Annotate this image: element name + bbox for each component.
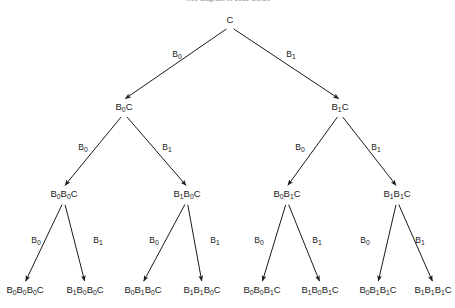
tree-edge-label-n6-n13: B0: [360, 235, 370, 246]
tree-edge-label-n1-n4: B1: [162, 142, 172, 153]
tree-node-n0: C: [227, 14, 234, 25]
tree-edge-n4-n10: [188, 205, 202, 281]
tree-edge-label-n0-n2: B1: [286, 49, 296, 60]
tree-edge-n0-n2: [234, 29, 339, 99]
tree-node-n8: B1B0B0C: [66, 284, 103, 296]
tree-edge-n1-n3: [65, 117, 121, 185]
tree-node-n3: B0B0C: [50, 188, 77, 200]
tree-edge-label-n2-n6: B1: [371, 142, 381, 153]
tree-edge-labels: B0B1B0B1B0B1B0B1B0B1B0B1B0B1: [31, 49, 425, 246]
tree-edge-n0-n1: [125, 29, 226, 99]
binary-tree-svg: B0B1B0B1B0B1B0B1B0B1B0B1B0B1 CB0CB1CB0B0…: [0, 0, 455, 308]
tree-node-n7: B0B0B0C: [6, 284, 43, 296]
tree-node-n14: B1B1B1C: [414, 284, 451, 296]
tree-node-n5: B0B1C: [273, 188, 300, 200]
tree-node-n10: B1B1B0C: [183, 284, 220, 296]
tree-edge-label-n5-n11: B0: [254, 235, 264, 246]
tree-edge-label-n5-n12: B1: [312, 235, 322, 246]
tree-node-n9: B0B1B0C: [124, 284, 161, 296]
tree-edge-label-n1-n3: B0: [78, 142, 88, 153]
tree-node-n4: B1B0C: [173, 188, 200, 200]
tree-node-n2: B1C: [332, 101, 349, 113]
tree-edges: [26, 29, 433, 281]
tree-node-n12: B1B0B1C: [301, 284, 338, 296]
tree-edge-n6-n13: [378, 205, 396, 281]
tree-edge-n3-n8: [65, 205, 85, 281]
figure-title: Tree diagram of code words: [0, 0, 455, 3]
tree-edge-n5-n11: [262, 205, 285, 281]
tree-edge-label-n6-n14: B1: [415, 235, 425, 246]
tree-node-n11: B0B0B1C: [243, 284, 280, 296]
tree-edge-label-n3-n8: B1: [93, 235, 103, 246]
tree-diagram-figure: Tree diagram of code words B0B1B0B1B0B1B…: [0, 0, 455, 308]
tree-edge-label-n0-n1: B0: [172, 49, 182, 60]
tree-edge-label-n4-n9: B0: [149, 235, 159, 246]
tree-edge-label-n3-n7: B0: [31, 235, 41, 246]
tree-edge-n2-n6: [343, 117, 396, 185]
tree-node-n1: B0C: [116, 101, 133, 113]
tree-node-n13: B0B1B1C: [359, 284, 396, 296]
tree-edge-label-n2-n5: B0: [295, 142, 305, 153]
tree-edge-label-n4-n10: B1: [210, 235, 220, 246]
tree-node-n6: B1B1C: [383, 188, 410, 200]
tree-edge-n1-n4: [127, 117, 186, 185]
